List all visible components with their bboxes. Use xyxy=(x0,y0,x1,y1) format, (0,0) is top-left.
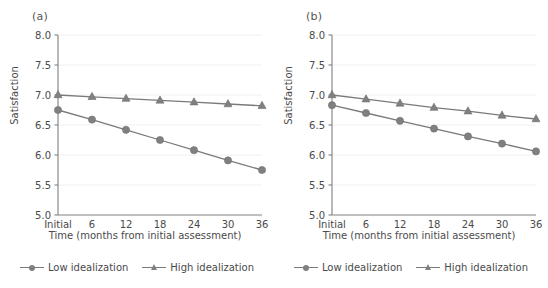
svg-text:7.5: 7.5 xyxy=(309,60,325,71)
svg-text:6.0: 6.0 xyxy=(35,150,51,161)
legend-entry-high-idealization: High idealization xyxy=(142,262,254,273)
legend-marker-circle-icon xyxy=(294,263,318,273)
panel-b-plot-area: 5.05.56.06.57.07.58.0Initial61218243036 … xyxy=(274,0,548,288)
legend-marker-triangle-icon xyxy=(142,263,166,273)
panel-a-y-axis-title: Satisfaction xyxy=(9,36,20,156)
panel-b-legend: Low idealization High idealization xyxy=(274,262,548,273)
legend-label-high-idealization: High idealization xyxy=(170,262,254,273)
svg-text:36: 36 xyxy=(256,219,269,230)
legend-marker-circle-icon xyxy=(20,263,44,273)
svg-text:6.0: 6.0 xyxy=(309,150,325,161)
panel-a-plot-area: 5.05.56.06.57.07.58.0Initial61218243036 … xyxy=(0,0,274,288)
svg-text:7.0: 7.0 xyxy=(35,90,51,101)
svg-text:5.5: 5.5 xyxy=(309,180,325,191)
panel-a-legend: Low idealization High idealization xyxy=(0,262,274,273)
svg-text:7.0: 7.0 xyxy=(309,90,325,101)
svg-text:8.0: 8.0 xyxy=(35,30,51,41)
legend-entry-low-idealization: Low idealization xyxy=(20,262,128,273)
svg-text:30: 30 xyxy=(496,219,509,230)
panel-b-x-axis-title: Time (months from initial assessment) xyxy=(294,230,544,241)
legend-entry-high-idealization: High idealization xyxy=(416,262,528,273)
svg-text:12: 12 xyxy=(394,219,407,230)
svg-text:12: 12 xyxy=(120,219,133,230)
legend-label-low-idealization: Low idealization xyxy=(322,262,402,273)
svg-text:6.5: 6.5 xyxy=(35,120,51,131)
svg-text:24: 24 xyxy=(462,219,475,230)
panel-a-x-axis-title: Time (months from initial assessment) xyxy=(20,230,270,241)
legend-entry-low-idealization: Low idealization xyxy=(294,262,402,273)
svg-text:Initial: Initial xyxy=(44,219,72,230)
svg-text:24: 24 xyxy=(188,219,201,230)
svg-text:18: 18 xyxy=(428,219,441,230)
svg-text:Initial: Initial xyxy=(318,219,346,230)
legend-marker-triangle-icon xyxy=(416,263,440,273)
panel-a: (a) 5.05.56.06.57.07.58.0Initial61218243… xyxy=(0,0,274,288)
panel-b-y-axis-title: Satisfaction xyxy=(283,36,294,156)
svg-text:6: 6 xyxy=(89,219,95,230)
svg-text:6.5: 6.5 xyxy=(309,120,325,131)
svg-text:18: 18 xyxy=(154,219,167,230)
svg-text:5.5: 5.5 xyxy=(35,180,51,191)
svg-text:6: 6 xyxy=(363,219,369,230)
svg-text:8.0: 8.0 xyxy=(309,30,325,41)
svg-text:7.5: 7.5 xyxy=(35,60,51,71)
legend-label-low-idealization: Low idealization xyxy=(48,262,128,273)
figure-two-panel-line-charts: (a) 5.05.56.06.57.07.58.0Initial61218243… xyxy=(0,0,548,288)
panel-a-svg: 5.05.56.06.57.07.58.0Initial61218243036 xyxy=(0,0,274,288)
panel-b: (b) 5.05.56.06.57.07.58.0Initial61218243… xyxy=(274,0,548,288)
svg-text:36: 36 xyxy=(530,219,543,230)
svg-text:30: 30 xyxy=(222,219,235,230)
panel-b-svg: 5.05.56.06.57.07.58.0Initial61218243036 xyxy=(274,0,548,288)
legend-label-high-idealization: High idealization xyxy=(444,262,528,273)
